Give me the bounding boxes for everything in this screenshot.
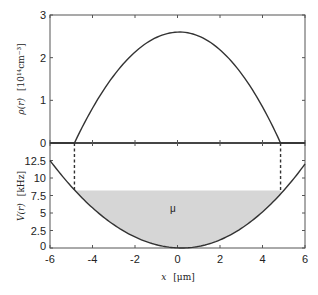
bottom-y-tick-labels: 2.557.51012.50 [25, 155, 46, 253]
x-tick-labels: -6-4-20246 [45, 253, 308, 265]
x-tick-label: 4 [259, 253, 265, 265]
top-panel-frame [50, 15, 305, 143]
x-axis-label: x [μm] [161, 266, 194, 283]
x-tick-label: -6 [45, 253, 55, 265]
y-tick-label: 5 [40, 207, 46, 219]
x-tick-label: -2 [130, 253, 140, 265]
x-tick-label: -4 [88, 253, 98, 265]
bottom-y-axis-label: V(r) [kHz] [10, 171, 27, 221]
y-tick-label: 1 [40, 94, 46, 106]
y-tick-label: 2 [40, 52, 46, 64]
chart-figure: 0123 2.557.51012.50 -6-4-20246 μ ρ(r) [1… [0, 0, 318, 295]
x-tick-label: 2 [217, 253, 223, 265]
top-y-tick-labels: 0123 [40, 9, 46, 149]
y-tick-label: 10 [34, 172, 46, 184]
y-tick-label: 2.5 [31, 225, 46, 237]
top-y-axis-label: ρ(r) [10¹⁴cm⁻³] [10, 43, 27, 115]
density-curve [50, 32, 305, 143]
y-tick-label: 3 [40, 9, 46, 21]
mu-annotation: μ [170, 203, 176, 214]
x-tick-label: 6 [302, 253, 308, 265]
y-tick-label: 0 [40, 240, 46, 252]
y-tick-label: 0 [40, 137, 46, 149]
y-tick-label: 7.5 [31, 190, 46, 202]
x-tick-label: 0 [174, 253, 180, 265]
y-tick-label: 12.5 [25, 155, 46, 167]
